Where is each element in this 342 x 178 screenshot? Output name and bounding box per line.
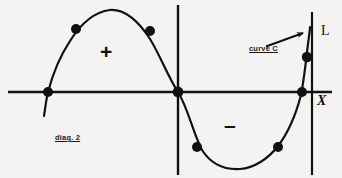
marked-point <box>192 142 202 152</box>
diagram-figure: + – X L curve C diag. 2 <box>0 0 342 178</box>
marked-point <box>297 87 307 97</box>
marked-point <box>145 26 155 36</box>
marked-point <box>43 87 53 97</box>
positive-region-sign: + <box>100 41 112 62</box>
marked-point <box>173 87 184 98</box>
diagram-canvas <box>0 0 342 178</box>
marked-point <box>273 142 283 152</box>
x-axis-label: X <box>317 94 326 108</box>
vertical-line-label: L <box>321 24 330 38</box>
marked-point <box>302 52 312 62</box>
diagram-caption-label: diag. 2 <box>55 134 80 142</box>
negative-region-sign: – <box>224 114 236 135</box>
marked-point <box>71 24 81 34</box>
curve-c-annotation-label: curve C <box>249 45 278 53</box>
